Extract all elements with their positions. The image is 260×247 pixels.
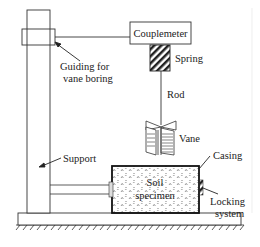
locking-clamp bbox=[199, 180, 203, 195]
diagram-canvas: Couplemeter Spring Rod Vane Soil specime… bbox=[0, 0, 260, 247]
soil-label-line2: specimen bbox=[135, 190, 175, 201]
support-post bbox=[27, 10, 50, 213]
casing-label: Casing bbox=[213, 150, 243, 161]
guiding-arrow-icon bbox=[55, 42, 80, 61]
vane-label: Vane bbox=[179, 133, 200, 144]
casing-leader bbox=[199, 156, 210, 169]
vane-shear-diagram: Couplemeter Spring Rod Vane Soil specime… bbox=[0, 0, 260, 247]
locking-label-line1: Locking bbox=[210, 196, 246, 207]
guide-bars bbox=[50, 185, 112, 194]
spring bbox=[150, 45, 170, 71]
couplemeter-label: Couplemeter bbox=[133, 28, 188, 39]
support-label: Support bbox=[63, 153, 96, 164]
base-plate bbox=[18, 213, 241, 225]
guiding-label-line2: vane boring bbox=[63, 73, 114, 84]
spring-label: Spring bbox=[175, 53, 204, 64]
ground-hatching bbox=[16, 225, 244, 230]
locking-leader bbox=[203, 188, 218, 194]
soil-label-line1: Soil bbox=[147, 177, 164, 188]
guiding-label-line1: Guiding for bbox=[60, 61, 110, 72]
left-clamp bbox=[109, 182, 113, 197]
rod-label: Rod bbox=[167, 89, 185, 100]
vane bbox=[146, 121, 176, 155]
locking-label-line2: system bbox=[215, 208, 244, 219]
